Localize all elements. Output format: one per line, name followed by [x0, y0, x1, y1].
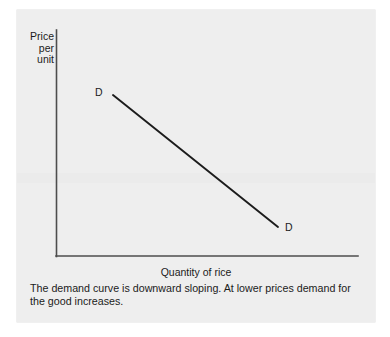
demand-curve-label-top: D — [95, 87, 103, 98]
y-axis-title: Price per unit — [17, 31, 54, 66]
figure-caption: The demand curve is downward sloping. At… — [30, 282, 360, 308]
figure-root: Price per unit Quantity of rice D D The … — [0, 0, 390, 337]
x-axis-title: Quantity of rice — [17, 266, 375, 278]
chart-svg — [17, 10, 375, 272]
figure-panel: Price per unit Quantity of rice D D The … — [17, 10, 375, 322]
demand-curve-line — [113, 95, 278, 227]
plot-area: Price per unit Quantity of rice D D — [17, 10, 375, 272]
demand-curve-label-bottom: D — [285, 222, 293, 233]
